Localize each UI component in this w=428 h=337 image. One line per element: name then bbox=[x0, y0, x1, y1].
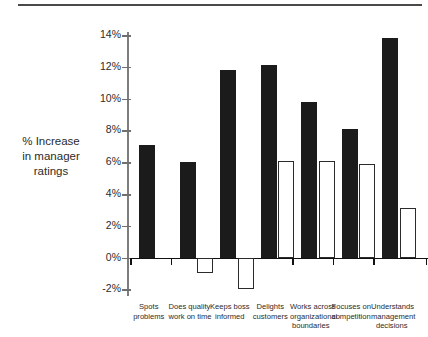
category-label-line: informed bbox=[209, 312, 251, 322]
category-label-line: problems bbox=[128, 312, 170, 322]
category-label-line: customers bbox=[250, 312, 292, 322]
y-axis-tick-mark bbox=[122, 67, 131, 69]
category-label: Understandsmanagementdecisions bbox=[371, 302, 413, 331]
bar-white bbox=[400, 208, 416, 257]
y-axis-tick-label: 2% bbox=[106, 219, 121, 232]
category-tick bbox=[130, 258, 132, 265]
y-axis-title-line-2: in manager bbox=[4, 149, 98, 164]
bar-black bbox=[139, 145, 155, 258]
y-axis-tick-label: 6% bbox=[106, 155, 121, 168]
category-label: Does qualitywork on time bbox=[169, 302, 211, 321]
bar-white bbox=[238, 258, 254, 290]
category-label: Focuses oncompetition bbox=[331, 302, 373, 321]
y-axis-tick-mark bbox=[122, 226, 131, 228]
bar-white bbox=[278, 161, 294, 258]
category-tick bbox=[426, 258, 428, 265]
y-axis-tick-mark bbox=[122, 130, 131, 132]
bar-black bbox=[220, 70, 236, 258]
bar-black bbox=[382, 38, 398, 257]
category-label-line: Understands bbox=[371, 302, 413, 312]
y-axis-tick-label: 12% bbox=[100, 60, 121, 73]
category-tick bbox=[171, 258, 173, 265]
category-label: Spotsproblems bbox=[128, 302, 170, 321]
category-label-line: boundaries bbox=[290, 321, 332, 331]
y-axis-tick-label: 14% bbox=[100, 28, 121, 41]
category-label-line: competition bbox=[331, 312, 373, 322]
category-label-line: Does quality bbox=[169, 302, 211, 312]
y-axis-tick-label: 8% bbox=[106, 123, 121, 136]
y-axis-tick-mark bbox=[122, 289, 131, 291]
y-axis-tick-label: -2% bbox=[102, 282, 121, 295]
category-label: Keeps bossinformed bbox=[209, 302, 251, 321]
bar-chart-plot-area: 14%12%10%8%6%4%2%0%-2% SpotsproblemsDoes… bbox=[100, 25, 418, 305]
category-label-line: Spots bbox=[128, 302, 170, 312]
category-label-line: work on time bbox=[169, 312, 211, 322]
category-label-line: Keeps boss bbox=[209, 302, 251, 312]
bar-white bbox=[359, 164, 375, 258]
bar-white bbox=[319, 161, 335, 258]
zero-baseline bbox=[127, 258, 428, 260]
y-axis-tick-label: 10% bbox=[100, 92, 121, 105]
category-label-line: decisions bbox=[371, 321, 413, 331]
category-tick bbox=[292, 258, 294, 265]
bar-white bbox=[197, 258, 213, 274]
y-axis-tick-mark bbox=[122, 194, 131, 196]
category-label: Works acrossorganizationalboundaries bbox=[290, 302, 332, 331]
category-label-line: Focuses on bbox=[331, 302, 373, 312]
category-tick bbox=[333, 258, 335, 265]
y-axis-tick-mark bbox=[122, 35, 131, 37]
y-axis-title-line-3: ratings bbox=[4, 164, 98, 179]
y-axis-tick-label: 0% bbox=[106, 251, 121, 264]
y-axis-title-line-1: % Increase bbox=[4, 134, 98, 149]
top-horizontal-rule bbox=[18, 4, 422, 6]
category-label-line: organizational bbox=[290, 312, 332, 322]
y-axis-tick-label: 4% bbox=[106, 187, 121, 200]
bar-black bbox=[180, 162, 196, 257]
bar-black bbox=[261, 65, 277, 257]
category-tick bbox=[373, 258, 375, 265]
category-label-line: management bbox=[371, 312, 413, 322]
y-axis-line bbox=[127, 32, 129, 296]
category-label-line: Works across bbox=[290, 302, 332, 312]
y-axis-title: % Increase in manager ratings bbox=[4, 134, 98, 179]
category-label-line: Delights bbox=[250, 302, 292, 312]
y-axis-tick-mark bbox=[122, 162, 131, 164]
bar-black bbox=[301, 102, 317, 258]
category-label: Delightscustomers bbox=[250, 302, 292, 321]
y-axis-tick-mark bbox=[122, 99, 131, 101]
bar-black bbox=[342, 129, 358, 258]
